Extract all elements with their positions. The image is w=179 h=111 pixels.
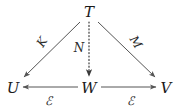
commutative-diagram: T U W V K N M ℰ ℰ [0, 0, 179, 111]
edge-label-N: N [74, 42, 85, 54]
node-label-W: W [81, 81, 96, 96]
edge-T-to-U [24, 22, 80, 77]
node-label-T: T [84, 5, 94, 20]
edge-label-epsilon-left: ℰ [45, 95, 52, 107]
node-label-U: U [7, 81, 20, 96]
node-label-V: V [161, 81, 172, 96]
edge-label-epsilon-right: ℰ [127, 95, 134, 107]
edge-T-to-V [98, 22, 155, 77]
